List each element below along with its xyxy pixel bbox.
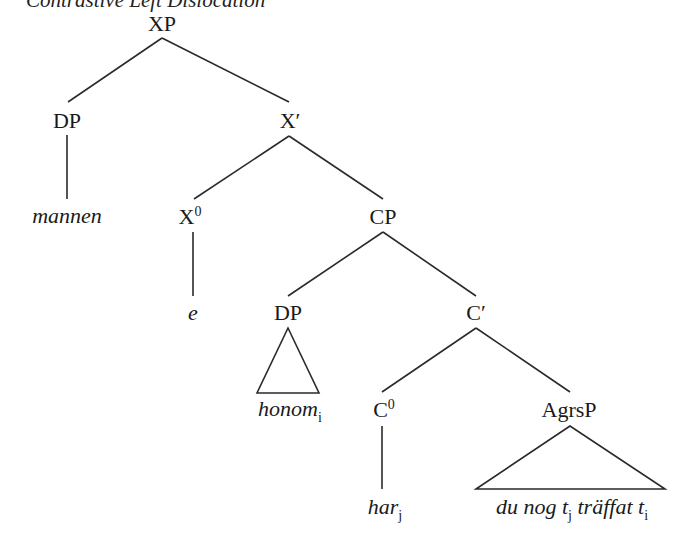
node-dp-left: DP [53, 110, 81, 132]
node-label: CP [370, 204, 397, 229]
node-label: XP [148, 11, 176, 36]
triangle-agrsp-clause [476, 426, 665, 489]
leaf-label: mannen [32, 203, 102, 228]
leaf-label: e [188, 300, 198, 325]
superscript: 0 [194, 204, 201, 219]
node-xbar: X′ [280, 110, 301, 132]
edge-cbar-agrsp [476, 328, 570, 392]
leaf-har: harj [368, 496, 402, 521]
node-label: X′ [280, 108, 301, 133]
clause-segment: du nog t [496, 494, 568, 519]
leaf-mannen: mannen [32, 205, 102, 227]
node-cbar: C′ [466, 302, 486, 324]
node-label: X [179, 204, 195, 229]
node-agrsp: AgrsP [541, 399, 596, 421]
index-subscript: i [318, 410, 322, 425]
node-dp-inner: DP [274, 302, 302, 324]
edge-xp-dp [68, 38, 162, 102]
node-label: C′ [466, 300, 486, 325]
clause-segment: träffat t [572, 494, 644, 519]
edge-xbar-cp [289, 136, 383, 199]
edge-cp-cbar [383, 232, 476, 296]
edge-xbar-x0 [194, 136, 289, 199]
leaf-label: honom [258, 396, 318, 421]
superscript: 0 [388, 397, 395, 412]
node-cp: CP [370, 206, 397, 228]
index-subscript: j [568, 508, 572, 523]
leaf-agrsp-clause: du nog tj träffat ti [496, 496, 648, 521]
node-label: AgrsP [541, 397, 596, 422]
node-xp: XP [148, 13, 176, 35]
leaf-label: har [368, 494, 399, 519]
leaf-e: e [188, 302, 198, 324]
index-subscript: i [644, 508, 648, 523]
node-x0: X0 [179, 206, 202, 231]
edge-cbar-c0 [382, 328, 476, 392]
edge-cp-dp [288, 232, 383, 296]
node-label: C [373, 397, 388, 422]
node-label: DP [53, 108, 81, 133]
node-c0: C0 [373, 399, 395, 424]
node-label: DP [274, 300, 302, 325]
edge-xp-xbar [162, 38, 289, 102]
leaf-honom: honomi [258, 398, 322, 423]
index-subscript: j [398, 508, 402, 523]
triangle-dp-honom [257, 328, 319, 393]
tree-edges [0, 0, 676, 537]
